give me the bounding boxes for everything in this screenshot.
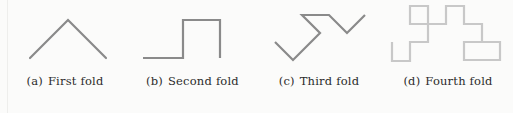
third-fold-path-icon: [255, 0, 383, 72]
panel-label: Second fold: [168, 74, 239, 88]
panel-tag: (d): [403, 74, 420, 88]
panel-label: First fold: [48, 74, 104, 88]
panel-caption: (d)Fourth fold: [383, 74, 513, 88]
second-fold-path-icon: [130, 0, 255, 72]
fourth-fold-art: [383, 0, 513, 72]
panel-first-fold: (a)First fold: [0, 0, 130, 113]
paper-folding-figure: (a)First fold (b)Second fold (c)Third fo…: [0, 0, 513, 113]
panel-second-fold: (b)Second fold: [130, 0, 255, 113]
first-fold-art: [0, 0, 130, 72]
fold-polyline: [392, 6, 500, 61]
panel-caption: (a)First fold: [0, 74, 130, 88]
panel-fourth-fold: (d)Fourth fold: [383, 0, 513, 113]
fold-polyline: [143, 20, 220, 58]
fold-polyline: [30, 20, 106, 58]
panel-tag: (a): [27, 74, 43, 88]
first-fold-path-icon: [0, 0, 130, 72]
panel-third-fold: (c)Third fold: [255, 0, 383, 113]
panel-caption: (c)Third fold: [255, 74, 383, 88]
second-fold-art: [130, 0, 255, 72]
fold-polyline: [275, 15, 365, 60]
panel-label: Third fold: [300, 74, 360, 88]
third-fold-art: [255, 0, 383, 72]
fourth-fold-path-icon: [383, 0, 513, 72]
panel-label: Fourth fold: [425, 74, 492, 88]
panel-tag: (b): [146, 74, 163, 88]
panel-tag: (c): [279, 74, 295, 88]
panel-caption: (b)Second fold: [130, 74, 255, 88]
